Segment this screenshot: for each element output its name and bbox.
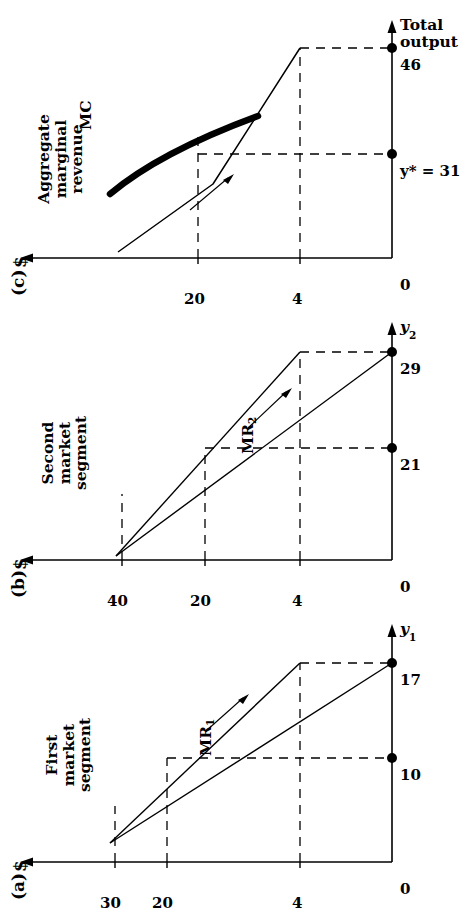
panel-c-marker-46 <box>387 43 397 53</box>
panel-a-origin-label: 0 <box>400 880 410 898</box>
panel-c-quantity-axis-name: Total output <box>400 17 458 50</box>
panel-a-marker-17 <box>387 658 397 668</box>
panel-b-marker-21 <box>387 443 397 453</box>
panel-b-value-tick-label-20: 20 <box>190 592 211 610</box>
panel-b-mr-leader-arrowhead <box>281 388 292 398</box>
panel-b-quantity-axis-arrowhead <box>388 322 397 335</box>
panel-c-quantity-axis-arrowhead <box>388 20 397 33</box>
panel-b: (b) $ Second market segment MR2 <box>0 302 436 604</box>
panel-c-quantity-tick-label-ystar: y* = 31 <box>400 162 460 180</box>
panel-a-quantity-tick-label-10: 10 <box>400 766 421 784</box>
panel-a-mr-leader-arrowhead <box>238 694 249 704</box>
panel-b-plot <box>0 302 436 604</box>
panel-c-value-tick-label-20: 20 <box>184 290 205 308</box>
panel-c-mc-curve <box>110 116 258 194</box>
panel-a: (a) $ First market segment MR1 <box>0 604 436 906</box>
panel-a-value-tick-label-30: 30 <box>100 894 121 912</box>
panel-b-demand-line <box>116 352 392 556</box>
panel-b-value-tick-label-40: 40 <box>107 592 128 610</box>
panel-a-quantity-axis-arrowhead <box>388 624 397 637</box>
panel-b-origin-label: 0 <box>400 578 410 596</box>
panel-b-mr-leader-line <box>248 392 286 428</box>
panel-a-plot <box>0 604 436 906</box>
panel-c-value-axis-arrowhead <box>20 254 33 263</box>
panel-b-mr-line <box>116 352 300 556</box>
panel-c-origin-label: 0 <box>400 276 410 294</box>
panel-c-plot <box>0 0 436 302</box>
panel-c: (c) $ Aggregate marginal revenue MC <box>0 0 436 302</box>
panel-a-mr-line <box>110 663 300 843</box>
panel-a-quantity-axis-name: y1 <box>400 621 416 640</box>
panel-a-value-tick-label-4: 4 <box>292 894 302 912</box>
panel-c-aggregate-mr-leader-arrowhead <box>223 174 234 184</box>
panel-a-value-tick-label-20: 20 <box>152 894 173 912</box>
panel-a-mr-leader-line <box>206 698 243 731</box>
panel-b-quantity-tick-label-21: 21 <box>400 456 421 474</box>
panel-b-value-axis-arrowhead <box>20 556 33 565</box>
panel-c-quantity-tick-label-46: 46 <box>400 56 421 74</box>
panel-a-quantity-tick-label-17: 17 <box>400 671 421 689</box>
panel-b-quantity-axis-name: y2 <box>400 319 416 338</box>
panel-b-value-tick-label-4: 4 <box>292 592 302 610</box>
panel-c-marker-ystar <box>387 149 397 159</box>
panel-a-marker-10 <box>387 753 397 763</box>
panel-c-aggregate-mr-leader-line <box>190 178 228 210</box>
panel-c-aggregate-mr-curve <box>118 48 300 252</box>
panel-c-value-tick-label-4: 4 <box>292 290 302 308</box>
panel-a-demand-line <box>110 663 392 843</box>
panel-b-marker-29 <box>387 347 397 357</box>
panel-b-quantity-tick-label-29: 29 <box>400 360 421 378</box>
panel-a-value-axis-arrowhead <box>20 858 33 867</box>
